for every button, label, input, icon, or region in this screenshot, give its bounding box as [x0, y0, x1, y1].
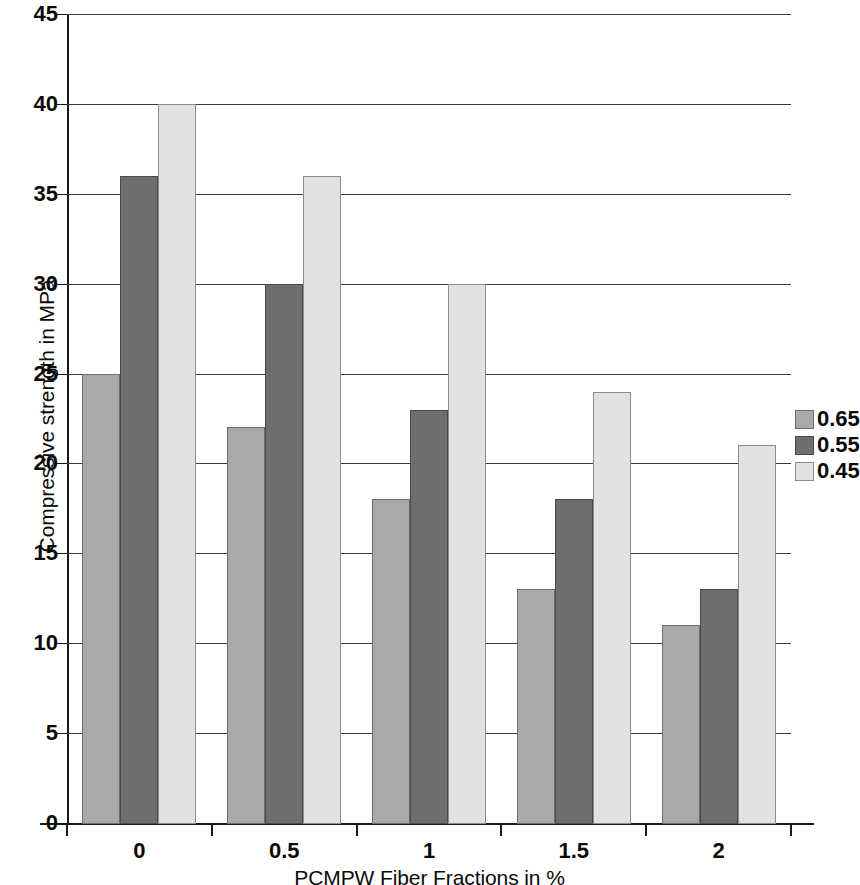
legend-item: 0.45	[795, 458, 860, 484]
y-axis-tick-label: 45	[34, 3, 58, 25]
bar	[120, 176, 158, 824]
y-axis-tick-label: 30	[34, 273, 58, 295]
bar	[700, 589, 738, 824]
legend-item: 0.55	[795, 432, 860, 458]
x-axis-title: PCMPW Fiber Fractions in %	[0, 866, 859, 885]
y-axis-tick-label: 10	[34, 632, 58, 654]
bar	[448, 284, 486, 824]
x-axis-tick-mark	[645, 824, 647, 836]
y-axis-tick-label: 0	[46, 812, 58, 834]
legend-swatch-icon	[795, 462, 814, 481]
y-axis-tick-label: 15	[34, 542, 58, 564]
plot-area: 454035302520151050	[67, 14, 791, 823]
bar	[517, 589, 555, 824]
bar	[158, 104, 196, 824]
x-axis-tick-mark	[66, 824, 68, 836]
y-axis-title: Compressive strength in MPa	[35, 11, 59, 821]
legend: 0.650.550.45	[795, 406, 860, 484]
x-axis-tick-label: 1	[423, 838, 435, 864]
legend-item-label: 0.55	[817, 434, 860, 456]
bar	[555, 499, 593, 824]
legend-item-label: 0.65	[817, 408, 860, 430]
y-axis-tick-label: 35	[34, 183, 58, 205]
bars-layer	[67, 14, 791, 823]
bar	[303, 176, 341, 824]
bar	[82, 374, 120, 824]
x-axis-tick-mark	[356, 824, 358, 836]
bar	[372, 499, 410, 824]
legend-item-label: 0.45	[817, 460, 860, 482]
x-axis-tick-label: 0	[133, 838, 145, 864]
y-axis-tick-label: 5	[46, 722, 58, 744]
x-axis-tick-label: 2	[712, 838, 724, 864]
bar	[410, 410, 448, 824]
legend-swatch-icon	[795, 436, 814, 455]
bar	[265, 284, 303, 824]
bar	[227, 427, 265, 824]
x-axis-tick-mark	[500, 824, 502, 836]
y-axis-tick-label: 20	[34, 452, 58, 474]
x-axis-tick-mark	[790, 824, 792, 836]
bar	[593, 392, 631, 824]
y-axis-tick-label: 25	[34, 363, 58, 385]
legend-swatch-icon	[795, 410, 814, 429]
x-axis-tick-label: 0.5	[269, 838, 300, 864]
x-axis-tick-mark	[211, 824, 213, 836]
x-axis-tick-label: 1.5	[559, 838, 590, 864]
legend-item: 0.65	[795, 406, 860, 432]
bar	[662, 625, 700, 824]
bar	[738, 445, 776, 824]
y-axis-tick-label: 40	[34, 93, 58, 115]
